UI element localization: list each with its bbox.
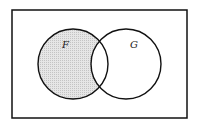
set-g-label: G (130, 39, 138, 50)
venn-diagram: F G (0, 0, 198, 122)
set-f-label: F (61, 39, 70, 50)
